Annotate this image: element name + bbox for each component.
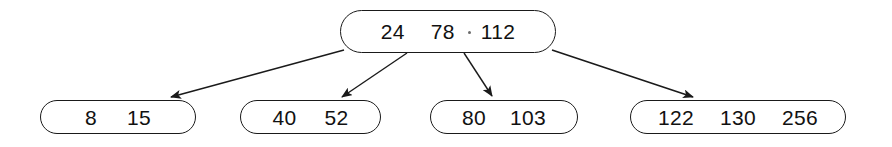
node-leaf-2-keys: 80 103 — [462, 107, 546, 128]
edge-root-to-leaf-3 — [552, 50, 693, 97]
node-leaf-1-key-0: 40 — [273, 107, 297, 128]
node-leaf-1-key-1: 52 — [325, 107, 349, 128]
scan-artifact-speck — [468, 31, 471, 34]
node-leaf-0-key-0: 8 — [85, 107, 97, 128]
btree-node-leaf-1: 40 52 — [240, 100, 381, 134]
node-root-key-2: 112 — [481, 21, 515, 42]
btree-node-leaf-2: 80 103 — [430, 100, 578, 134]
btree-node-root: 24 78 112 — [340, 10, 556, 53]
edge-root-to-leaf-1 — [342, 53, 407, 97]
node-leaf-0-keys: 8 15 — [85, 107, 151, 128]
node-leaf-3-keys: 122 130 256 — [658, 107, 818, 128]
node-root-key-0: 24 — [381, 21, 405, 42]
node-root-key-1: 78 — [431, 21, 455, 42]
node-leaf-3-key-0: 122 — [658, 107, 694, 128]
edge-root-to-leaf-2 — [464, 53, 492, 96]
btree-diagram: 24 78 112 8 15 40 52 80 103 122 130 256 — [0, 0, 892, 147]
node-leaf-2-key-0: 80 — [462, 107, 486, 128]
node-leaf-0-key-1: 15 — [127, 107, 151, 128]
node-leaf-3-key-2: 256 — [782, 107, 818, 128]
node-leaf-1-keys: 40 52 — [273, 107, 349, 128]
node-leaf-3-key-1: 130 — [720, 107, 756, 128]
btree-node-leaf-3: 122 130 256 — [630, 100, 846, 134]
btree-node-leaf-0: 8 15 — [40, 100, 196, 134]
edge-root-to-leaf-0 — [171, 50, 344, 97]
node-leaf-2-key-1: 103 — [510, 107, 546, 128]
node-root-keys: 24 78 112 — [381, 21, 515, 42]
